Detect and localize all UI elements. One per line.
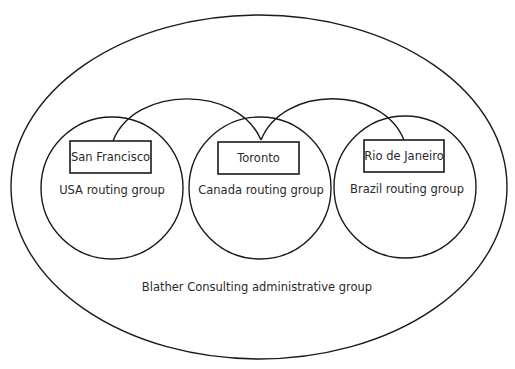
- administrative-group-label: Blather Consulting administrative group: [142, 280, 372, 294]
- server-label: Rio de Janeiro: [364, 149, 443, 163]
- server-box-san-francisco: San Francisco: [70, 141, 151, 173]
- usa-routing-group-label: USA routing group: [59, 183, 165, 197]
- canada-routing-group-label: Canada routing group: [198, 183, 324, 197]
- brazil-routing-group-label: Brazil routing group: [350, 182, 464, 196]
- server-box-rio-de-janeiro: Rio de Janeiro: [364, 140, 444, 172]
- server-box-toronto: Toronto: [218, 142, 299, 174]
- server-label: Toronto: [236, 151, 279, 165]
- routing-group-diagram: San Francisco Toronto Rio de Janeiro USA…: [0, 0, 515, 369]
- server-label: San Francisco: [71, 150, 150, 164]
